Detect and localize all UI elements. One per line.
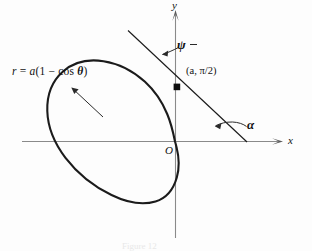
y-axis-label: y xyxy=(172,0,177,11)
alpha-angle-label: α xyxy=(247,118,254,131)
psi-angle-label: ψ xyxy=(177,38,186,51)
tangent-point-marker xyxy=(174,84,181,91)
origin-label: O xyxy=(165,145,173,156)
equation-cos: cos xyxy=(58,65,74,77)
equation-open: (1 xyxy=(35,65,45,77)
equation-equals: = xyxy=(20,65,27,77)
equation-r: r xyxy=(12,65,17,77)
equation-leader-line xyxy=(71,87,103,117)
equation-minus: − xyxy=(49,65,56,77)
alpha-angle-indicator xyxy=(215,122,247,129)
tangent-line xyxy=(128,31,247,143)
cardioid-curve xyxy=(47,60,178,203)
equation-close: ) xyxy=(84,65,88,77)
figure-caption: Figure 12 xyxy=(122,242,157,251)
tangent-point-label: (a, π/2) xyxy=(186,66,216,77)
x-axis-label: x xyxy=(288,135,293,146)
curve-equation-label: r = a(1 − cos θ) xyxy=(12,66,88,78)
